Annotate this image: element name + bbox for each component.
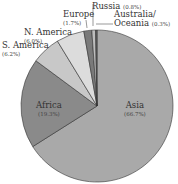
label-s-america: S. America(6.2%) <box>2 41 49 59</box>
label-australia-oceania: Australia/ Oceania (0.3%) <box>114 10 170 29</box>
label-africa: Africa(19.3%) <box>36 101 62 119</box>
label-europe: Europe(1.7%) <box>63 10 94 28</box>
label-asia: Asia(66.7%) <box>124 101 146 119</box>
